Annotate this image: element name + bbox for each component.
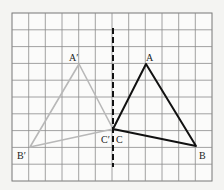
label-c-prime: C′	[101, 134, 110, 145]
label-b-prime: B′	[17, 150, 26, 161]
label-b: B	[199, 150, 206, 161]
label-a-prime: A′	[69, 52, 78, 63]
reflection-diagram: A B C A′ B′ C′	[0, 0, 224, 190]
label-c: C	[116, 134, 123, 145]
label-a: A	[146, 52, 154, 63]
